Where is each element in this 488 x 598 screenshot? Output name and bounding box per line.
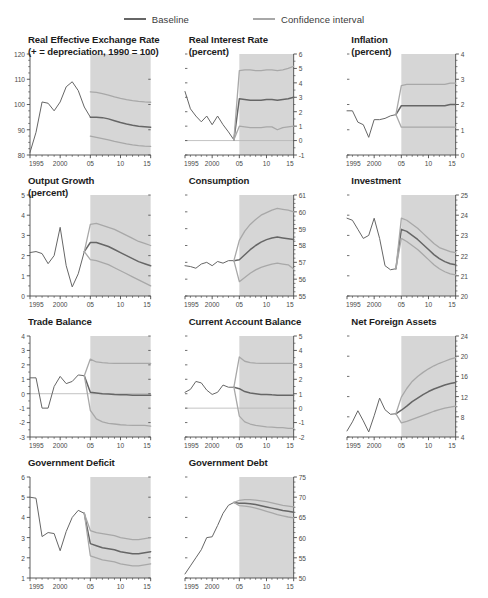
chart-panel: -1012345619952000051015Real Interest Rat…	[163, 32, 326, 173]
y-tick-label: 2	[298, 109, 302, 116]
y-tick-label: 4	[461, 434, 465, 441]
y-tick-label: 2	[21, 362, 25, 369]
series-line-history	[347, 218, 396, 270]
chart-panel: 5556575859606119952000051015Consumption	[163, 173, 326, 314]
y-tick-label: 2	[21, 555, 25, 562]
y-tick-label: 65	[298, 514, 306, 521]
y-tick-label: 120	[14, 51, 25, 58]
chart-grid: 809010011012019952000051015Real Effectiv…	[0, 32, 488, 596]
y-tick-label: 70	[298, 494, 306, 501]
y-tick-label: 0	[298, 405, 302, 412]
panel-title: Output Growth	[28, 175, 94, 187]
series-line-history	[185, 381, 234, 394]
y-tick-label: 55	[298, 555, 306, 562]
panel-title: Trade Balance	[28, 316, 92, 328]
x-tick-label: 10	[117, 301, 125, 308]
panel-title: Current Account Balance	[189, 316, 302, 328]
panel-plot: 481216202419952000051015	[325, 314, 488, 455]
y-tick-label: 6	[298, 51, 302, 58]
chart-page: Baseline Confidence interval 80901001101…	[0, 0, 488, 598]
y-tick-label: 3	[21, 535, 25, 542]
y-tick-label: -1	[19, 405, 25, 412]
series-line-history	[347, 111, 396, 138]
y-tick-label: 60	[298, 209, 306, 216]
x-tick-label: 05	[235, 442, 243, 449]
y-tick-label: 61	[298, 192, 306, 199]
y-tick-label: 80	[18, 152, 26, 159]
panel-title: Investment	[351, 175, 401, 187]
x-tick-label: 15	[143, 301, 151, 308]
y-tick-label: 4	[461, 51, 465, 58]
x-tick-label: 10	[117, 442, 125, 449]
chart-panel: -3-2-10123419952000051015Trade Balance	[0, 314, 163, 455]
y-tick-label: 2	[298, 376, 302, 383]
y-tick-label: -1	[298, 152, 304, 159]
chart-panel: 0123419952000051015Inflation(percent)	[325, 32, 488, 173]
legend-label-confidence-interval: Confidence interval	[281, 14, 364, 25]
line-swatch-icon	[124, 18, 146, 20]
y-tick-label: 75	[298, 474, 306, 481]
y-tick-label: 12	[461, 394, 469, 401]
x-tick-label: 2000	[204, 583, 219, 590]
x-tick-label: 15	[286, 160, 294, 167]
y-tick-label: 1	[461, 127, 465, 134]
panel-title: Net Foreign Assets	[351, 316, 436, 328]
series-line-history	[185, 92, 234, 140]
y-tick-label: 16	[461, 373, 469, 380]
panel-title: Real Interest Rate	[189, 34, 268, 46]
x-tick-label: 10	[425, 160, 433, 167]
y-tick-label: 24	[461, 212, 469, 219]
y-tick-label: -2	[298, 434, 304, 441]
x-tick-label: 05	[398, 301, 406, 308]
series-line-history	[185, 261, 234, 269]
y-tick-label: 23	[461, 232, 469, 239]
y-tick-label: 4	[298, 80, 302, 87]
x-tick-label: 05	[87, 583, 95, 590]
series-line-history	[30, 375, 84, 408]
y-tick-label: 6	[21, 474, 25, 481]
y-tick-label: 2	[21, 253, 25, 260]
panel-plot: 5556575859606119952000051015	[163, 173, 326, 314]
x-tick-label: 10	[262, 583, 270, 590]
panel-title: Government Deficit	[28, 457, 115, 469]
chart-panel: 809010011012019952000051015Real Effectiv…	[0, 32, 163, 173]
forecast-band	[90, 336, 150, 437]
x-tick-label: 15	[143, 583, 151, 590]
y-tick-label: 20	[461, 293, 469, 300]
chart-panel: 20212223242519952000051015Investment	[325, 173, 488, 314]
y-tick-label: 56	[298, 276, 306, 283]
panel-title: Consumption	[189, 175, 250, 187]
y-tick-label: -3	[19, 434, 25, 441]
series-line-history	[30, 497, 84, 551]
x-tick-label: 15	[286, 301, 294, 308]
y-tick-label: 1	[21, 575, 25, 582]
y-tick-label: 1	[298, 123, 302, 130]
chart-panel: 01234519952000051015Output Growth(percen…	[0, 173, 163, 314]
chart-panel: 12345619952000051015Government Deficit	[0, 455, 163, 596]
y-tick-label: 57	[298, 259, 306, 266]
forecast-band	[239, 336, 293, 437]
y-tick-label: 1	[21, 376, 25, 383]
forecast-band	[402, 336, 456, 437]
y-tick-label: 5	[298, 65, 302, 72]
y-tick-label: 55	[298, 293, 306, 300]
panel-subtitle: (percent)	[28, 187, 68, 199]
x-tick-label: 05	[398, 442, 406, 449]
x-tick-label: 2000	[204, 301, 219, 308]
x-tick-label: 2000	[204, 160, 219, 167]
y-tick-label: -1	[298, 419, 304, 426]
y-tick-label: 5	[21, 494, 25, 501]
y-tick-label: 90	[18, 127, 26, 134]
x-tick-label: 2000	[53, 583, 68, 590]
series-line-history	[30, 82, 90, 153]
x-tick-label: 10	[425, 301, 433, 308]
legend-item-baseline: Baseline	[124, 14, 189, 25]
x-tick-label: 15	[143, 160, 151, 167]
y-tick-label: 21	[461, 273, 469, 280]
x-tick-label: 1995	[184, 442, 199, 449]
x-tick-label: 2000	[53, 442, 68, 449]
x-tick-label: 1995	[184, 160, 199, 167]
y-tick-label: 25	[461, 192, 469, 199]
line-swatch-icon	[253, 18, 275, 20]
x-tick-label: 05	[235, 583, 243, 590]
